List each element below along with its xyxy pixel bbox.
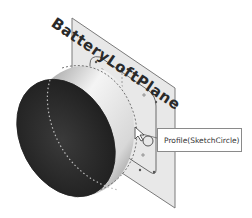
tooltip-text: Profile(SketchCircle) xyxy=(164,136,240,145)
model-scene xyxy=(0,0,252,218)
graphics-viewport[interactable]: BatteryLoftPlane Profile(SketchCircle) xyxy=(0,0,252,218)
selection-tooltip: Profile(SketchCircle) xyxy=(157,128,242,152)
